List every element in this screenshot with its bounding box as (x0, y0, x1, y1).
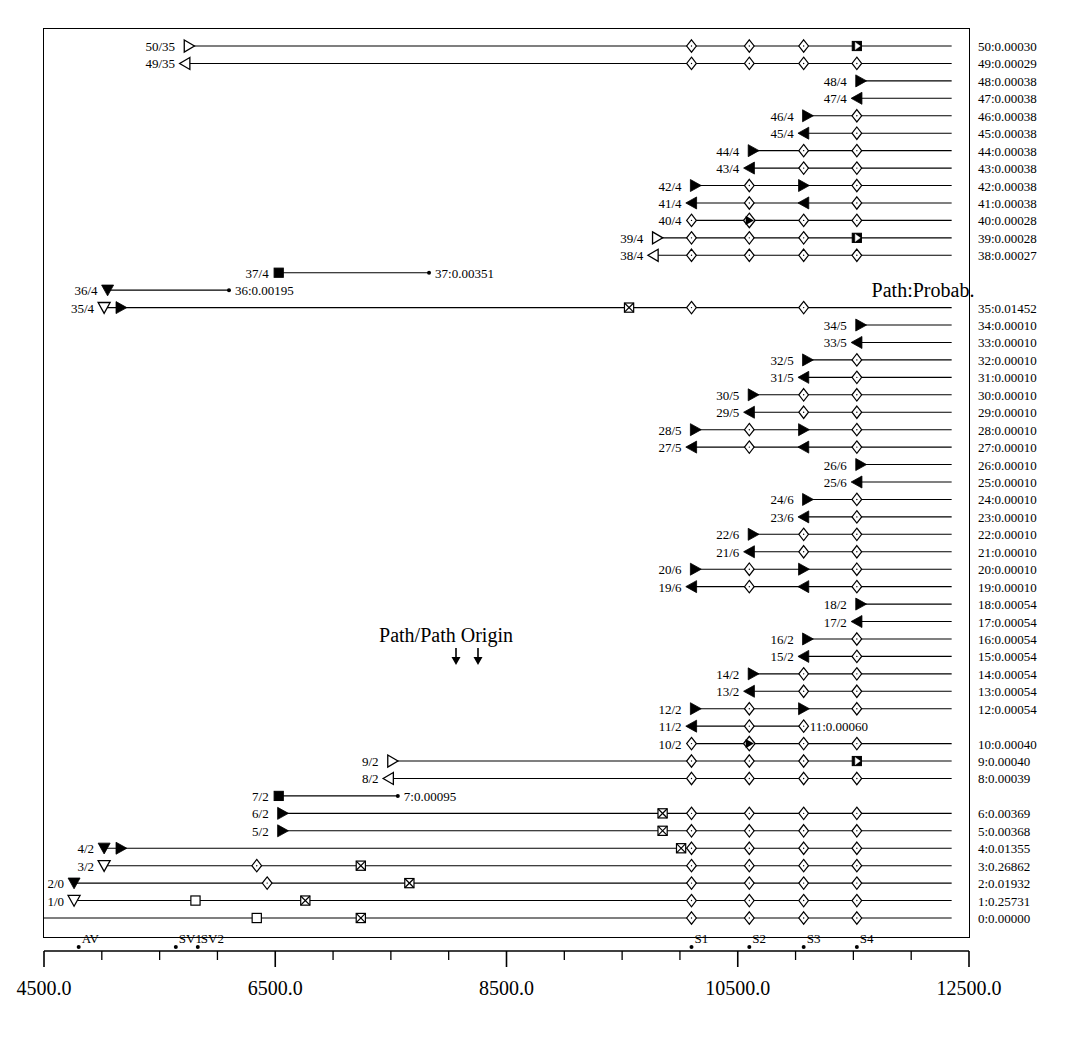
event-marker-label-sv2: SV2 (201, 932, 224, 945)
marker-28-1 (799, 424, 810, 436)
start-marker-15 (798, 650, 809, 662)
marker-22-1 (852, 528, 862, 540)
marker-27-0 (744, 441, 754, 453)
marker-9-2 (799, 755, 809, 767)
start-marker-28 (690, 424, 701, 436)
marker-28-0 (744, 423, 754, 435)
marker-5-0 (658, 826, 667, 835)
start-marker-20 (690, 563, 701, 575)
path-origin-label-14: 14/2 (716, 667, 739, 680)
marker-20-0 (744, 563, 754, 575)
marker-14-0 (799, 668, 809, 680)
marker-29-0 (799, 406, 809, 418)
path-prob-label-32: 32:0.00010 (978, 353, 1037, 366)
path-prob-label-27: 27:0.00010 (978, 441, 1037, 454)
x-axis-title: Zeit [s] (0, 0, 535, 23)
path-origin-label-46: 46/4 (771, 109, 794, 122)
marker-27-2 (852, 441, 862, 453)
path-prob-label-29: 29:0.00010 (978, 406, 1037, 419)
marker-39-3 (852, 233, 861, 242)
path-origin-label-40: 40/4 (658, 214, 681, 227)
marker-10-2 (852, 737, 862, 749)
marker-35-0 (624, 303, 633, 312)
marker-46-0 (852, 110, 862, 122)
start-marker-30 (748, 389, 759, 401)
marker-12-0 (744, 703, 754, 715)
marker-5-3 (799, 825, 809, 837)
start-marker-33 (851, 336, 862, 348)
marker-38-1 (744, 249, 754, 261)
path-prob-label-25: 25:0.00010 (978, 476, 1037, 489)
marker-50-1 (744, 40, 754, 52)
marker-40-0 (744, 213, 756, 227)
marker-11-0 (744, 720, 754, 732)
marker-39-2 (799, 232, 809, 244)
path-prob-label-40: 40:0.00028 (978, 214, 1037, 227)
marker-9-1 (744, 755, 754, 767)
path-prob-label-41: 41:0.00038 (978, 196, 1037, 209)
marker-9-0 (687, 755, 697, 767)
marker-11-1 (799, 720, 809, 732)
path-prob-label-20: 20:0.00010 (978, 563, 1037, 576)
path-prob-label-38: 38:0.00027 (978, 249, 1037, 262)
start-marker-38 (648, 249, 658, 261)
second-marker-35 (116, 302, 127, 314)
marker-13-1 (852, 685, 862, 697)
marker-12-1 (799, 703, 810, 715)
marker-50-2 (799, 40, 809, 52)
marker-50-3 (852, 41, 861, 50)
marker-2-0 (262, 877, 272, 889)
marker-3-1 (356, 861, 365, 870)
path-prob-label-23: 23:0.00010 (978, 510, 1037, 523)
marker-42-2 (852, 179, 862, 191)
marker-30-0 (799, 389, 809, 401)
end-marker-7 (396, 794, 400, 798)
start-marker-43 (744, 162, 755, 174)
legend-path-origin-label: Path/Path Origin (379, 624, 513, 646)
path-prob-label-31: 31:0.00010 (978, 371, 1037, 384)
event-marker-dot-s1 (690, 945, 694, 949)
marker-2-3 (744, 877, 754, 889)
path-origin-label-35: 35/4 (71, 301, 94, 314)
marker-29-1 (852, 406, 862, 418)
marker-38-3 (852, 249, 862, 261)
marker-1-2 (687, 894, 697, 906)
legend-path-probability: Path:Probab. (872, 279, 975, 302)
second-marker-4 (116, 842, 127, 854)
marker-3-0 (252, 859, 262, 871)
path-prob-label-16: 16:0.00054 (978, 632, 1037, 645)
path-prob-label-24: 24:0.00010 (978, 493, 1037, 506)
marker-4-2 (744, 842, 754, 854)
marker-23-0 (852, 511, 862, 523)
path-origin-label-44: 44/4 (716, 144, 739, 157)
path-prob-label-19: 19:0.00010 (978, 580, 1037, 593)
path-prob-label-8: 8:0.00039 (978, 772, 1030, 785)
marker-8-0 (687, 772, 697, 784)
marker-12-2 (852, 703, 862, 715)
marker-41-0 (744, 197, 754, 209)
start-marker-42 (690, 180, 701, 192)
event-marker-label-av: AV (82, 932, 99, 945)
marker-19-1 (798, 581, 809, 593)
marker-19-0 (744, 580, 754, 592)
path-prob-label-2: 2:0.01932 (978, 877, 1030, 890)
marker-19-2 (852, 580, 862, 592)
path-prob-label-48: 48:0.00038 (978, 74, 1037, 87)
path-origin-label-33: 33/5 (824, 336, 847, 349)
marker-50-0 (687, 40, 697, 52)
marker-0-0 (252, 913, 261, 922)
start-marker-48 (856, 75, 867, 87)
marker-43-0 (799, 162, 809, 174)
marker-4-3 (799, 842, 809, 854)
marker-1-0 (191, 896, 200, 905)
x-axis-tick-label-3: 10500.0 (705, 978, 770, 998)
path-prob-label-4: 4:0.01355 (978, 842, 1030, 855)
marker-3-5 (852, 859, 862, 871)
event-marker-label-s3: S3 (807, 932, 821, 945)
marker-49-3 (852, 57, 862, 69)
path-prob-label-12: 12:0.00054 (978, 702, 1037, 715)
path-prob-inline-label-11: 11:0.00060 (810, 720, 868, 733)
start-marker-17 (851, 616, 862, 628)
marker-10-1 (799, 737, 809, 749)
start-marker-27 (686, 441, 697, 453)
